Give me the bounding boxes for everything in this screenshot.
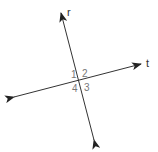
angle-1-label: 1 xyxy=(71,69,77,80)
angle-2-label: 2 xyxy=(82,68,88,79)
line-r xyxy=(61,13,94,140)
intersecting-lines-diagram: r t 1 2 3 4 xyxy=(0,0,158,152)
line-r-label: r xyxy=(67,6,71,18)
angle-3-label: 3 xyxy=(84,82,90,93)
angle-4-label: 4 xyxy=(72,83,78,94)
line-t-label: t xyxy=(146,57,149,69)
